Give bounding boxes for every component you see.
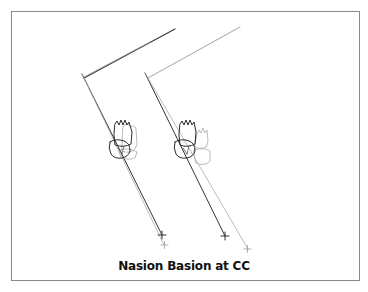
left-tracing xyxy=(82,29,175,249)
figure-caption: Nasion Basion at CC xyxy=(0,259,368,273)
right-tracing xyxy=(145,27,251,253)
cephalometric-diagram xyxy=(0,0,368,292)
